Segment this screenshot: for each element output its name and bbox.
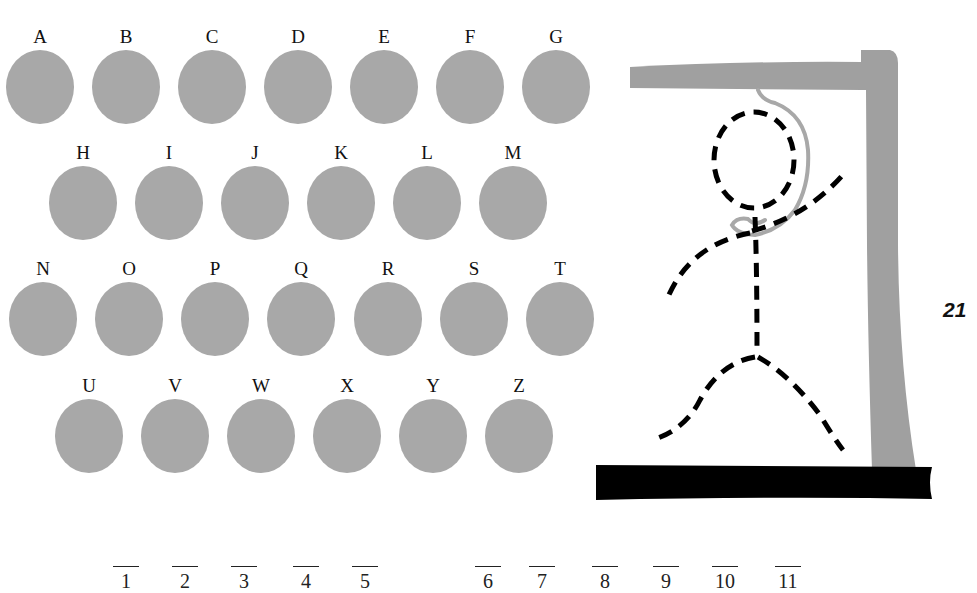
blank-number: 7 (522, 570, 562, 593)
letter-label: W (226, 375, 296, 397)
letter-label: L (392, 142, 462, 164)
letter-label: H (48, 142, 118, 164)
letter-label: C (177, 26, 247, 48)
letter-e[interactable]: E (349, 26, 419, 124)
gallows-base (596, 465, 932, 500)
blank-line (113, 566, 139, 567)
blank-slot-3: 3 (224, 566, 264, 593)
page-counter: 21 (943, 298, 966, 322)
blank-slot-2: 2 (165, 566, 205, 593)
letter-disc[interactable] (485, 399, 553, 473)
letter-label: D (263, 26, 333, 48)
letter-label: X (312, 375, 382, 397)
letter-disc[interactable] (393, 166, 461, 240)
letter-m[interactable]: M (478, 142, 548, 240)
blank-number: 1 (106, 570, 146, 593)
blank-number: 2 (165, 570, 205, 593)
letter-disc[interactable] (440, 282, 508, 356)
letter-disc[interactable] (92, 50, 160, 124)
letter-c[interactable]: C (177, 26, 247, 124)
letter-u[interactable]: U (54, 375, 124, 473)
figure-body (755, 217, 757, 355)
blank-number: 3 (224, 570, 264, 593)
letter-h[interactable]: H (48, 142, 118, 240)
letter-label: R (353, 258, 423, 280)
figure-left-arm (668, 233, 750, 297)
blank-slot-6: 6 (468, 566, 508, 593)
letter-disc[interactable] (49, 166, 117, 240)
letter-w[interactable]: W (226, 375, 296, 473)
letter-label: V (140, 375, 210, 397)
blank-slot-8: 8 (585, 566, 625, 593)
letter-s[interactable]: S (439, 258, 509, 356)
letter-label: U (54, 375, 124, 397)
letter-disc[interactable] (522, 50, 590, 124)
letter-disc[interactable] (436, 50, 504, 124)
letter-v[interactable]: V (140, 375, 210, 473)
blank-number: 8 (585, 570, 625, 593)
letter-q[interactable]: Q (266, 258, 336, 356)
letter-disc[interactable] (9, 282, 77, 356)
letter-disc[interactable] (354, 282, 422, 356)
letter-disc[interactable] (181, 282, 249, 356)
blank-slot-4: 4 (286, 566, 326, 593)
letter-label: E (349, 26, 419, 48)
letter-k[interactable]: K (306, 142, 376, 240)
letter-label: K (306, 142, 376, 164)
letter-g[interactable]: G (521, 26, 591, 124)
letter-t[interactable]: T (525, 258, 595, 356)
letter-disc[interactable] (307, 166, 375, 240)
letter-label: S (439, 258, 509, 280)
blank-number: 10 (705, 570, 745, 593)
letter-b[interactable]: B (91, 26, 161, 124)
letter-l[interactable]: L (392, 142, 462, 240)
letter-disc[interactable] (227, 399, 295, 473)
blank-number: 11 (768, 570, 808, 593)
letter-disc[interactable] (141, 399, 209, 473)
letter-label: N (8, 258, 78, 280)
letter-y[interactable]: Y (398, 375, 468, 473)
letter-disc[interactable] (264, 50, 332, 124)
letter-label: Y (398, 375, 468, 397)
letter-z[interactable]: Z (484, 375, 554, 473)
letter-disc[interactable] (399, 399, 467, 473)
blank-line (592, 566, 618, 567)
letter-p[interactable]: P (180, 258, 250, 356)
letter-x[interactable]: X (312, 375, 382, 473)
letter-label: Q (266, 258, 336, 280)
letter-d[interactable]: D (263, 26, 333, 124)
letter-a[interactable]: A (5, 26, 75, 124)
letter-label: T (525, 258, 595, 280)
letter-disc[interactable] (221, 166, 289, 240)
letter-disc[interactable] (313, 399, 381, 473)
blank-line (172, 566, 198, 567)
letter-r[interactable]: R (353, 258, 423, 356)
letter-disc[interactable] (479, 166, 547, 240)
letter-n[interactable]: N (8, 258, 78, 356)
letter-disc[interactable] (55, 399, 123, 473)
blank-slot-10: 10 (705, 566, 745, 593)
letter-disc[interactable] (267, 282, 335, 356)
blank-number: 6 (468, 570, 508, 593)
letter-disc[interactable] (526, 282, 594, 356)
blank-slot-11: 11 (768, 566, 808, 593)
letter-disc[interactable] (135, 166, 203, 240)
letter-o[interactable]: O (94, 258, 164, 356)
letter-j[interactable]: J (220, 142, 290, 240)
blank-line (529, 566, 555, 567)
letter-label: G (521, 26, 591, 48)
letter-i[interactable]: I (134, 142, 204, 240)
letter-label: O (94, 258, 164, 280)
blank-slot-7: 7 (522, 566, 562, 593)
letter-f[interactable]: F (435, 26, 505, 124)
figure-left-leg (652, 357, 755, 440)
letter-disc[interactable] (95, 282, 163, 356)
letter-label: B (91, 26, 161, 48)
blank-number: 4 (286, 570, 326, 593)
gallows-top-beam (630, 62, 862, 90)
letter-disc[interactable] (350, 50, 418, 124)
letter-label: A (5, 26, 75, 48)
blank-line (712, 566, 738, 567)
letter-disc[interactable] (178, 50, 246, 124)
letter-disc[interactable] (6, 50, 74, 124)
